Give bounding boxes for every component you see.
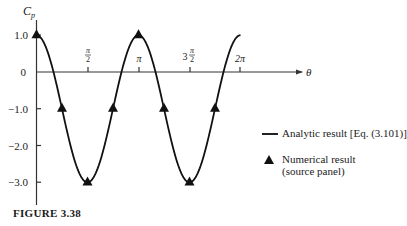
triangle-marker-icon (57, 103, 67, 112)
y-tick-label-m2: −2.0 (8, 140, 28, 152)
svg-text:3: 3 (183, 51, 188, 62)
triangle-marker-icon (159, 103, 169, 112)
x-tick-label-2pi: 2π (235, 53, 246, 64)
x-axis-title: θ (306, 66, 312, 78)
y-axis-title: Cp (23, 4, 35, 20)
y-ticks (37, 35, 42, 182)
svg-text:π: π (86, 46, 91, 55)
triangle-marker-icon (32, 29, 42, 38)
x-axis-arrow-icon (296, 70, 303, 75)
x-tick-label-pi-half: π 2 (85, 46, 91, 64)
triangle-marker-icon (210, 103, 220, 112)
svg-text:2: 2 (86, 55, 90, 64)
y-tick-label-m1: −1.0 (8, 103, 28, 115)
y-tick-label-m3: −3.0 (8, 176, 28, 188)
svg-text:2: 2 (190, 55, 194, 64)
x-tick-label-pi: π (136, 53, 142, 64)
svg-text:π: π (190, 46, 195, 55)
y-tick-label-1: 1.0 (14, 29, 28, 41)
x-tick-label-3pi-half: 3 π 2 (183, 46, 196, 64)
triangle-marker-icon (108, 103, 118, 112)
x-ticks (88, 67, 240, 72)
figure-caption: FIGURE 3.38 (13, 207, 81, 219)
y-tick-label-0: 0 (21, 66, 27, 78)
triangle-marker-icon (134, 29, 144, 38)
